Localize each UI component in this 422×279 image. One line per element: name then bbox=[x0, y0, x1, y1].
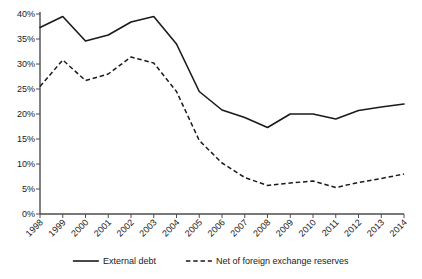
x-axis-tick-label: 2013 bbox=[365, 217, 386, 238]
x-axis-tick-label: 1998 bbox=[24, 217, 45, 238]
x-axis-tick-label: 2011 bbox=[320, 217, 341, 238]
y-axis-tick-label: 20% bbox=[17, 109, 35, 119]
series-line-net-of-foreign-exchange-reserves bbox=[40, 57, 404, 188]
x-axis-tick-label: 1999 bbox=[46, 217, 67, 238]
chart-container: 0%5%10%15%20%25%30%35%40% 19981999200020… bbox=[0, 0, 422, 279]
y-axis-tick-label: 35% bbox=[17, 34, 35, 44]
x-axis-tick-label: 2000 bbox=[69, 217, 90, 238]
y-axis-tick-label: 0% bbox=[22, 209, 35, 219]
line-chart: 0%5%10%15%20%25%30%35%40% 19981999200020… bbox=[0, 0, 422, 279]
x-axis-tick-label: 2014 bbox=[388, 217, 409, 238]
legend-label: Net of foreign exchange reserves bbox=[216, 256, 349, 266]
x-axis-tick-label: 2006 bbox=[206, 217, 227, 238]
x-axis-tick-label: 2009 bbox=[274, 217, 295, 238]
x-axis-tick-label: 2010 bbox=[297, 217, 318, 238]
x-axis-tick-label: 2012 bbox=[342, 217, 363, 238]
x-axis-tick-label: 2004 bbox=[160, 217, 181, 238]
x-axis-tick-labels: 1998199920002001200220032004200520062007… bbox=[24, 217, 409, 238]
y-axis-tick-label: 5% bbox=[22, 184, 35, 194]
x-axis-tick-label: 2003 bbox=[137, 217, 158, 238]
y-axis-tick-label: 25% bbox=[17, 84, 35, 94]
y-axis-tick-label: 10% bbox=[17, 159, 35, 169]
x-axis-tick-label: 2001 bbox=[92, 217, 113, 238]
y-axis-tick-label: 15% bbox=[17, 134, 35, 144]
x-axis-tick-label: 2005 bbox=[183, 217, 204, 238]
x-axis-tick-label: 2002 bbox=[115, 217, 136, 238]
y-axis-tick-labels: 0%5%10%15%20%25%30%35%40% bbox=[17, 9, 35, 219]
x-axis-tick-label: 2008 bbox=[251, 217, 272, 238]
y-axis-tick-label: 30% bbox=[17, 59, 35, 69]
series-line-external-debt bbox=[40, 17, 404, 128]
legend-label: External debt bbox=[103, 256, 157, 266]
x-axis-tick-label: 2007 bbox=[228, 217, 249, 238]
y-axis-tick-label: 40% bbox=[17, 9, 35, 19]
chart-legend: External debtNet of foreign exchange res… bbox=[73, 256, 349, 266]
